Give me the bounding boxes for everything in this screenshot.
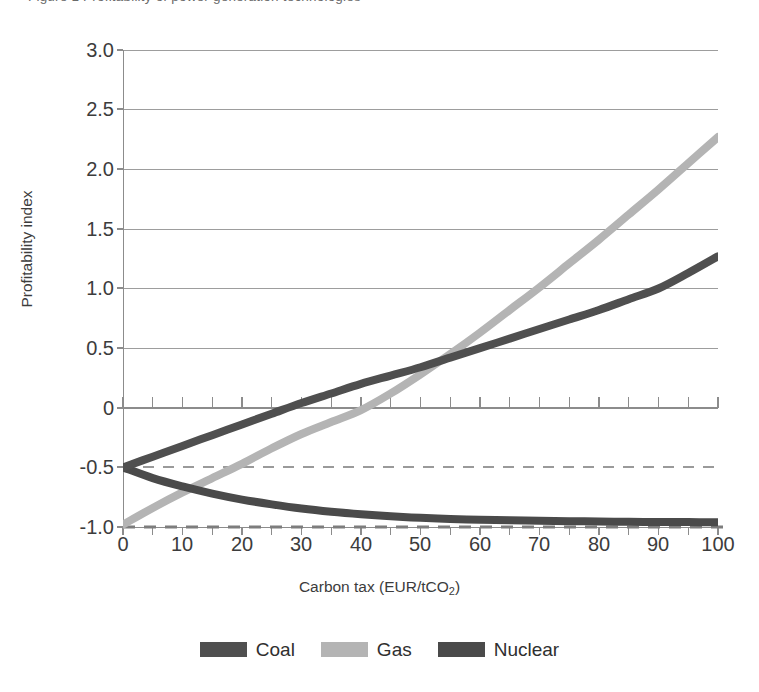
legend-label-coal: Coal [256,640,295,659]
x-axis-tick-labels: 0 10 20 30 40 50 60 70 80 90 100 [0,534,759,568]
x-tick-label: 0 [93,534,153,554]
x-tick-label: 80 [569,534,629,554]
chart-figure: Figure 1 Profitability of power generati… [0,0,759,692]
chart-legend: Coal Gas Nuclear [0,640,759,659]
legend-item-nuclear: Nuclear [438,640,559,659]
x-tick-label: 30 [271,534,331,554]
x-tick-label: 20 [212,534,272,554]
legend-swatch-nuclear [438,642,485,657]
legend-swatch-gas [321,642,368,657]
legend-item-gas: Gas [321,640,412,659]
legend-label-nuclear: Nuclear [494,640,559,659]
x-axis-ticks-zero-line [123,397,718,408]
x-axis-title: Carbon tax (EUR/tCO2) [0,578,759,597]
x-tick-label: 60 [450,534,510,554]
x-tick-label: 50 [390,534,450,554]
x-tick-label: 10 [152,534,212,554]
x-axis-title-base: Carbon tax (EUR/tCO [299,578,449,595]
x-tick-label: 90 [628,534,688,554]
y-axis-ticks [117,50,123,527]
x-tick-label: 70 [509,534,569,554]
legend-label-gas: Gas [377,640,412,659]
x-tick-label: 100 [688,534,748,554]
legend-swatch-coal [200,642,247,657]
x-axis-title-tail: ) [455,578,460,595]
x-tick-label: 40 [331,534,391,554]
legend-item-coal: Coal [200,640,295,659]
